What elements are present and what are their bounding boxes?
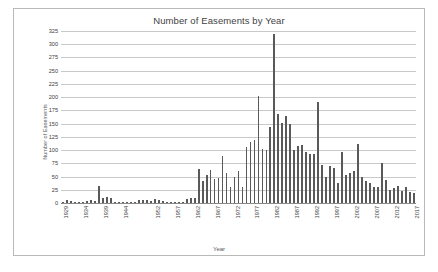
bar	[369, 183, 371, 203]
bar	[210, 170, 212, 203]
x-axis-tick-label: 1987	[294, 206, 300, 218]
y-axis-tick-label: 225	[49, 81, 58, 87]
bar	[226, 173, 228, 203]
x-axis-tick-label: 1957	[175, 206, 181, 218]
bar	[297, 146, 299, 203]
bar	[413, 193, 415, 203]
bar	[269, 127, 271, 203]
bar	[281, 123, 283, 203]
bar	[273, 34, 275, 203]
x-axis-tick-label: 1962	[195, 206, 201, 218]
bar	[389, 190, 391, 203]
x-axis-tick-label: 1934	[83, 206, 89, 218]
bar	[397, 186, 399, 203]
bar	[385, 180, 387, 203]
bar	[98, 186, 100, 203]
y-axis-tick-label: 150	[49, 121, 58, 127]
y-axis-tick-label: 200	[49, 94, 58, 100]
x-axis-tick-label: 2017	[414, 206, 420, 218]
x-axis-tick-label: 2007	[374, 206, 380, 218]
chart-frame: Number of Easements by Year Number of Ea…	[13, 8, 425, 256]
bar	[234, 177, 236, 203]
bar	[301, 145, 303, 203]
x-axis-tick-label: 1972	[235, 206, 241, 218]
bar	[202, 181, 204, 203]
x-axis-tick-label: 1997	[334, 206, 340, 218]
y-axis-tick-label: 75	[52, 160, 58, 166]
bar	[258, 96, 260, 203]
y-axis-tick-label: 50	[52, 174, 58, 180]
bar	[365, 181, 367, 203]
bar	[222, 156, 224, 203]
x-axis-tick-label: 2002	[354, 206, 360, 218]
x-axis-tick-labels: 1929193419391944195219571962196719721977…	[61, 203, 416, 251]
y-axis-tick-label: 175	[49, 107, 58, 113]
y-axis-tick-label: 325	[49, 28, 58, 34]
bar	[333, 168, 335, 203]
x-axis-tick-label: 1977	[254, 206, 260, 218]
y-axis-title: Number of Easements	[42, 104, 48, 160]
bar	[377, 187, 379, 203]
bar	[381, 163, 383, 203]
bar	[317, 102, 319, 203]
bar	[285, 116, 287, 203]
bar	[198, 169, 200, 203]
x-axis-tick-label: 1992	[314, 206, 320, 218]
plot-area: 0255075100125150175200225250275300325 19…	[61, 31, 416, 203]
bar	[341, 152, 343, 203]
bar	[250, 142, 252, 203]
bar	[361, 177, 363, 203]
x-axis-tick-label: 1982	[274, 206, 280, 218]
bar	[218, 178, 220, 203]
y-axis-tick-label: 25	[52, 187, 58, 193]
bar	[254, 140, 256, 203]
bar	[401, 191, 403, 203]
y-axis-tick-label: 275	[49, 54, 58, 60]
x-axis-tick-label: 1929	[63, 206, 69, 218]
y-axis-tick-label: 250	[49, 68, 58, 74]
bar	[357, 144, 359, 203]
chart-title: Number of Easements by Year	[14, 15, 424, 26]
bar	[289, 124, 291, 203]
bar	[277, 114, 279, 203]
y-axis-tick-label: 125	[49, 134, 58, 140]
bar	[409, 192, 411, 203]
bar	[309, 154, 311, 203]
bar	[353, 171, 355, 203]
x-axis-tick-label: 1939	[103, 206, 109, 218]
bar	[321, 165, 323, 203]
x-axis-tick-label: 2012	[394, 206, 400, 218]
bar	[393, 188, 395, 203]
bar	[230, 187, 232, 203]
bar	[238, 171, 240, 203]
bar	[345, 175, 347, 203]
bar	[349, 173, 351, 203]
y-axis-tick-label: 300	[49, 41, 58, 47]
y-axis-tick-label: 0	[55, 200, 58, 206]
bar-series	[61, 31, 416, 203]
y-axis-tick-label: 100	[49, 147, 58, 153]
bar	[214, 179, 216, 203]
bar	[329, 166, 331, 203]
bar	[206, 175, 208, 203]
bar	[313, 154, 315, 203]
x-axis-tick-label: 1952	[155, 206, 161, 218]
x-axis-tick-label: 1967	[215, 206, 221, 218]
bar	[325, 177, 327, 203]
bar	[293, 150, 295, 203]
bar	[405, 187, 407, 203]
bar	[266, 150, 268, 203]
bar	[246, 147, 248, 203]
bar	[337, 183, 339, 203]
bar	[305, 152, 307, 203]
bar	[242, 187, 244, 203]
bar	[373, 187, 375, 203]
x-axis-title: Year	[14, 246, 424, 252]
x-axis-tick-label: 1944	[123, 206, 129, 218]
bar	[262, 149, 264, 203]
